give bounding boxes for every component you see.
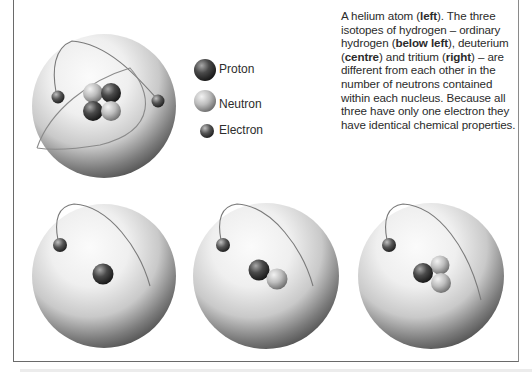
- caption-emphasis: right: [446, 50, 471, 63]
- proton-ball: [249, 260, 270, 281]
- legend-electron-icon: [200, 124, 214, 138]
- figure-caption: A helium atom (left). The three isotopes…: [341, 9, 516, 131]
- legend-neutron-icon: [194, 90, 216, 112]
- proton-ball: [83, 101, 103, 121]
- proton-ball: [101, 83, 121, 103]
- electron-ball: [152, 95, 165, 108]
- deuterium-atom: [193, 203, 339, 349]
- electron-ball: [52, 91, 65, 104]
- legend-label-electron: Electron: [219, 123, 263, 137]
- proton-ball: [413, 263, 433, 283]
- caption-text: ) and tritium (: [379, 50, 446, 63]
- helium-atom: [32, 34, 176, 178]
- neutron-ball: [431, 273, 451, 293]
- legend-proton-icon: [194, 59, 216, 81]
- neutron-ball: [83, 83, 103, 103]
- legend-label-neutron: Neutron: [219, 97, 262, 111]
- electron-ball: [216, 238, 230, 252]
- neutron-ball: [431, 256, 450, 275]
- proton-ball: [93, 264, 114, 285]
- neutron-ball: [101, 101, 121, 121]
- electron-ball: [382, 238, 396, 252]
- caption-emphasis: below left: [395, 36, 447, 49]
- legend-label-proton: Proton: [219, 62, 254, 76]
- caption-emphasis: centre: [345, 50, 379, 63]
- caption-emphasis: left: [420, 9, 437, 22]
- caption-text: A helium atom (: [341, 9, 420, 22]
- tritium-atom: [358, 203, 504, 349]
- neutron-ball: [267, 269, 288, 290]
- hydrogen-atom: [32, 204, 176, 348]
- electron-ball: [53, 238, 67, 252]
